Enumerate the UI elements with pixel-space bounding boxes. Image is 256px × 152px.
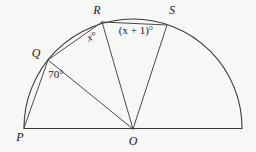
point-label-s: S <box>169 3 175 17</box>
angle-label-qor: x° <box>84 29 99 44</box>
radius-o-r <box>102 22 133 129</box>
point-label-r: R <box>92 3 101 17</box>
angle-label-poq: 70° <box>48 68 63 80</box>
chord-p-q <box>24 60 48 128</box>
point-label-p: P <box>15 130 24 144</box>
semicircle-figure: P Q R S O 70° x° (x + 1)° <box>0 0 256 152</box>
geometry-diagram-screenshot: P Q R S O 70° x° (x + 1)° <box>0 0 256 152</box>
radius-o-s <box>133 25 167 129</box>
point-label-o: O <box>129 134 138 148</box>
point-label-q: Q <box>32 46 41 60</box>
angle-label-ros: (x + 1)° <box>119 24 153 37</box>
